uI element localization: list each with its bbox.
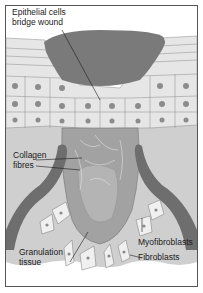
label-collagen-fibres: Collagen fibres	[13, 151, 47, 170]
label-myofibroblasts: Myofibroblasts	[138, 238, 193, 248]
label-granulation-tissue: Granulation tissue	[19, 248, 63, 267]
label-epithelial-cells: Epithelial cells bridge wound	[12, 8, 66, 27]
label-fibroblasts: Fibroblasts	[138, 253, 180, 263]
